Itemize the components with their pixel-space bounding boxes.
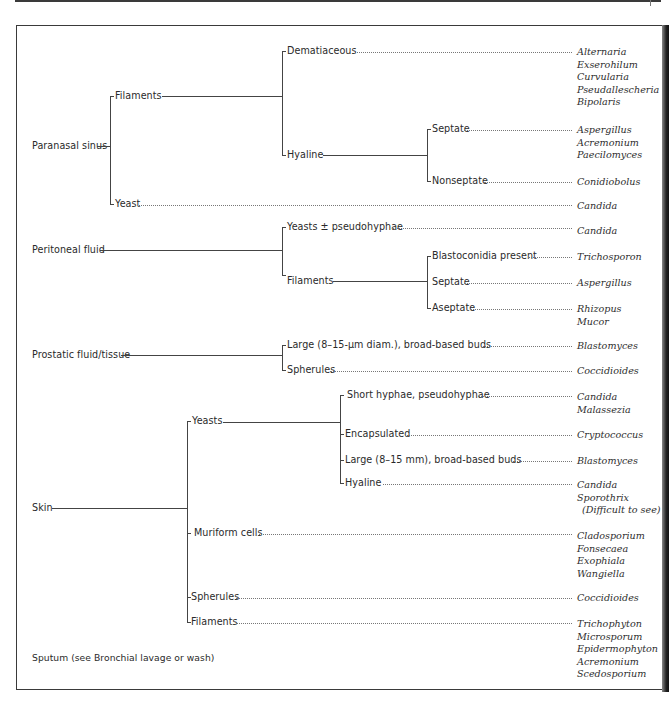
organism-name: Cryptococcus [577, 429, 643, 442]
leader-dots [236, 598, 572, 599]
organism-name: Microsporum [577, 631, 658, 644]
organism-list: Blastomyces [577, 455, 638, 468]
leader-dots [139, 205, 572, 206]
organism-name: Aspergillus [577, 124, 642, 137]
organism-name: Epidermophyton [577, 643, 658, 656]
leader-dots [357, 52, 572, 53]
organism-name: Blastomyces [577, 455, 638, 468]
leader-dots [330, 371, 572, 372]
organism-name: (Difficult to see) [577, 504, 661, 517]
organism-list: Candida [577, 200, 617, 213]
leader-dots [464, 130, 572, 131]
organism-list: CandidaSporothrix(Difficult to see) [577, 479, 661, 517]
branch-septate: Septate [432, 123, 470, 135]
page-top-tick [650, 0, 651, 6]
organism-name: Blastomyces [577, 340, 638, 353]
bracket [340, 395, 341, 483]
bracket [282, 227, 283, 275]
organism-list: CladosporiumFonsecaeaExophialaWangiella [577, 530, 645, 580]
leader-dots [259, 534, 572, 535]
connector [282, 370, 286, 371]
organism-list: Coccidioides [577, 365, 639, 378]
connector [187, 533, 191, 534]
organism-name: Mucor [577, 316, 622, 329]
organism-name: Wangiella [577, 568, 645, 581]
connector [282, 51, 286, 52]
connector [97, 146, 110, 147]
branch-septate: Septate [432, 276, 470, 288]
branch-spherules: Spherules [287, 364, 335, 376]
bracket [110, 96, 111, 204]
organism-list: TrichophytonMicrosporumEpidermophytonAcr… [577, 618, 658, 681]
organism-name: Conidiobolus [577, 176, 640, 189]
page-edge-shadow [662, 25, 669, 692]
connector [333, 281, 427, 282]
branch-large-broad-based-buds: Large (8–15 mm), broad-based buds [345, 454, 522, 466]
organism-name: Candida [577, 200, 617, 213]
organism-name: Rhizopus [577, 303, 622, 316]
organism-name: Scedosporium [577, 668, 658, 681]
branch-yeasts-pseudohyphae: Yeasts ± pseudohyphae [287, 221, 403, 233]
organism-list: Candida [577, 225, 617, 238]
specimen-skin: Skin [32, 502, 53, 514]
connector [110, 204, 114, 205]
organism-list: Aspergillus [577, 277, 632, 290]
organism-list: AlternariaExserohilumCurvulariaPseudalle… [577, 46, 659, 109]
organism-name: Aspergillus [577, 277, 632, 290]
bracket [427, 129, 428, 181]
branch-nonseptate: Nonseptate [432, 175, 488, 187]
organism-name: Paecilomyces [577, 149, 642, 162]
leader-dots [383, 484, 572, 485]
organism-list: Trichosporon [577, 251, 642, 264]
leader-dots [484, 182, 572, 183]
connector [427, 256, 431, 257]
organism-list: Cryptococcus [577, 429, 643, 442]
branch-filaments: Filaments [191, 616, 238, 628]
connector [223, 422, 340, 423]
connector [427, 129, 431, 130]
connector [282, 345, 286, 346]
branch-yeast: Yeast [115, 198, 140, 210]
branch-encapsulated: Encapsulated [345, 428, 410, 440]
leader-dots [483, 346, 572, 347]
connector [100, 250, 282, 251]
organism-name: Exserohilum [577, 59, 659, 72]
organism-name: Malassezia [577, 404, 631, 417]
organism-name: Cladosporium [577, 530, 645, 543]
organism-name: Candida [577, 225, 617, 238]
organism-name: Acremonium [577, 137, 642, 150]
organism-list: CandidaMalassezia [577, 391, 631, 416]
connector [340, 460, 344, 461]
branch-hyaline: Hyaline [287, 149, 323, 161]
connector [427, 308, 431, 309]
leader-dots [478, 396, 572, 397]
specimen-paranasal-sinus: Paranasal sinus [32, 140, 107, 152]
connector [282, 227, 286, 228]
organism-name: Coccidioides [577, 592, 639, 605]
leader-dots [236, 623, 572, 624]
connector [340, 483, 344, 484]
organism-name: Trichophyton [577, 618, 658, 631]
bracket [427, 256, 428, 308]
branch-filaments: Filaments [115, 90, 162, 102]
leader-dots [392, 228, 572, 229]
connector [282, 155, 286, 156]
specimen-prostatic-fluid-tissue: Prostatic fluid/tissue [32, 349, 130, 361]
leader-dots [508, 461, 572, 462]
leader-dots [464, 283, 572, 284]
specimen-sputum-note: Sputum (see Bronchial lavage or wash) [32, 652, 214, 664]
branch-spherules: Spherules [191, 591, 239, 603]
branch-yeasts: Yeasts [192, 415, 222, 427]
branch-muriform-cells: Muriform cells [194, 527, 263, 539]
organism-list: Blastomyces [577, 340, 638, 353]
bracket [282, 345, 283, 370]
branch-aseptate: Aseptate [432, 302, 475, 314]
leader-dots [528, 257, 572, 258]
organism-name: Fonsecaea [577, 543, 645, 556]
connector [187, 421, 191, 422]
leader-dots [470, 309, 572, 310]
organism-list: RhizopusMucor [577, 303, 622, 328]
branch-short-hyphae-pseudohyphae: Short hyphae, pseudohyphae [347, 389, 490, 401]
organism-name: Bipolaris [577, 96, 659, 109]
organism-name: Candida [577, 479, 661, 492]
